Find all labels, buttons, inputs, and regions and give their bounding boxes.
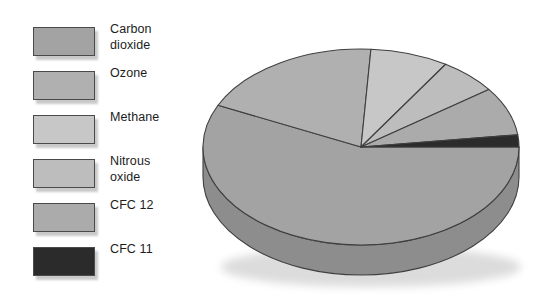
legend-item-methane[interactable]: Methane	[33, 110, 193, 154]
legend-label-methane: Methane	[110, 110, 159, 126]
legend-swatch-wrap-cfc-12	[33, 203, 95, 232]
legend-swatch-carbon-dioxide	[33, 27, 95, 56]
legend-item-nitrous-oxide[interactable]: Nitrous oxide	[33, 154, 193, 198]
legend-swatch-wrap-cfc-11	[33, 247, 95, 276]
legend-swatch-wrap-methane	[33, 115, 95, 144]
legend-item-ozone[interactable]: Ozone	[33, 66, 193, 110]
pie-chart	[185, 15, 558, 295]
legend-swatch-ozone	[33, 71, 95, 100]
legend-swatch-cfc-11	[33, 247, 95, 276]
legend-item-cfc-12[interactable]: CFC 12	[33, 198, 193, 242]
legend-label-ozone: Ozone	[110, 66, 147, 82]
pie-chart-svg	[185, 15, 558, 295]
pie-top-faces	[203, 49, 519, 245]
legend-swatch-nitrous-oxide	[33, 159, 95, 188]
legend-label-cfc-12: CFC 12	[110, 198, 154, 214]
legend-item-carbon-dioxide[interactable]: Carbon dioxide	[33, 22, 193, 66]
legend-swatch-cfc-12	[33, 203, 95, 232]
legend-swatch-wrap-carbon-dioxide	[33, 27, 95, 56]
greenhouse-gas-pie-figure: Carbon dioxide Ozone Methane Nitrous oxi…	[0, 0, 558, 295]
legend-swatch-wrap-nitrous-oxide	[33, 159, 95, 188]
legend-label-cfc-11: CFC 11	[110, 242, 153, 258]
legend-label-nitrous-oxide: Nitrous oxide	[110, 154, 150, 185]
legend-swatch-wrap-ozone	[33, 71, 95, 100]
legend: Carbon dioxide Ozone Methane Nitrous oxi…	[33, 22, 193, 286]
legend-label-carbon-dioxide: Carbon dioxide	[110, 22, 152, 53]
legend-item-cfc-11[interactable]: CFC 11	[33, 242, 193, 286]
legend-swatch-methane	[33, 115, 95, 144]
